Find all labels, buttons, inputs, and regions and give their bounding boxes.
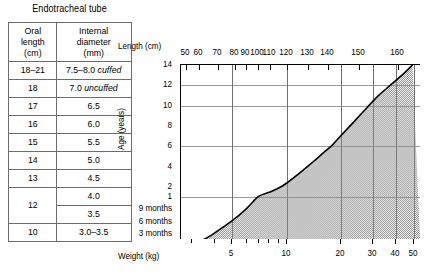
top-axis-tick-label: 100 (250, 47, 264, 57)
y-axis-tick-label: 2 (123, 181, 172, 191)
axis-tick (180, 106, 181, 107)
top-axis-tick-label: 140 (320, 47, 334, 57)
cell-oral-length: 17 (10, 97, 54, 115)
table-row: 134.5 (9, 169, 132, 187)
axis-tick (398, 65, 399, 70)
shaded-region (192, 65, 420, 239)
growth-nomogram: Length (cm) Weight (kg) Age (years) 5060… (118, 0, 424, 274)
axis-tick (287, 65, 288, 70)
table-row: 187.0 uncuffed (9, 79, 132, 97)
y-axis-tick-label: 6 (123, 140, 172, 150)
y-axis-tick-label: 4 (123, 161, 172, 171)
axis-tick-minor (246, 239, 247, 243)
y-axis-tick-label: 3 months (123, 228, 172, 238)
axis-tick (180, 187, 181, 188)
table-row: 176.5 (9, 97, 132, 115)
axis-tick (258, 65, 259, 70)
x-axis-tick-label: 20 (336, 248, 345, 258)
axis-tick (180, 197, 181, 198)
column-header-oral-length: Oral length (cm) (10, 23, 54, 62)
top-axis-tick-label: 50 (181, 47, 190, 57)
axis-tick (270, 65, 271, 70)
cell-oral-length: 12 (10, 187, 54, 223)
y-axis-tick-label: 9 months (123, 203, 172, 213)
axis-tick (340, 239, 341, 244)
diameter-note: uncuffed (84, 82, 118, 93)
axis-tick (180, 126, 181, 127)
x-axis-tick-label: 10 (281, 248, 290, 258)
axis-tick-minor (278, 239, 279, 243)
axis-tick (180, 234, 181, 235)
table-row: 124.0 (9, 187, 132, 205)
top-axis-title: Length (cm) (118, 41, 161, 51)
top-axis-tick-label: 120 (280, 47, 294, 57)
top-axis-tick-label: 130 (300, 47, 314, 57)
cell-oral-length: 10 (10, 223, 54, 241)
y-axis-tick-label: 14 (123, 59, 172, 69)
x-axis-tick-label: 30 (368, 248, 377, 258)
axis-tick (180, 85, 181, 86)
table-row: 103.0–3.5 (9, 223, 132, 241)
cell-oral-length: 18–21 (10, 61, 54, 79)
header-line: Oral (11, 25, 54, 36)
axis-tick (231, 239, 232, 244)
x-axis-tick-label: 40 (390, 248, 399, 258)
axis-tick (235, 65, 236, 70)
cell-oral-length: 18 (10, 79, 54, 97)
top-axis-tick-label: 150 (351, 47, 365, 57)
axis-tick-minor (191, 239, 192, 243)
y-axis-tick-label: 12 (123, 79, 172, 89)
top-axis-tick-label: 90 (241, 47, 250, 57)
axis-tick-minor (258, 239, 259, 243)
endotracheal-tube-table: Oral length (cm) Internal diameter (mm) … (8, 22, 132, 242)
axis-tick (180, 209, 181, 210)
table-title: Endotracheal tube (7, 3, 132, 14)
axis-tick (372, 239, 373, 244)
axis-tick-minor (214, 239, 215, 243)
cell-oral-length: 16 (10, 115, 54, 133)
axis-tick (413, 239, 414, 244)
table-row: 18–217.5–8.0 cuffed (9, 61, 132, 79)
header-line: (cm) (11, 47, 54, 58)
x-axis-title: Weight (kg) (118, 251, 159, 261)
cell-oral-length: 14 (10, 151, 54, 169)
axis-tick (395, 239, 396, 244)
axis-tick (218, 65, 219, 70)
y-axis-tick-label: 6 months (123, 216, 172, 226)
axis-tick (246, 65, 247, 70)
axis-tick (199, 65, 200, 70)
table-header-row: Oral length (cm) Internal diameter (mm) (9, 23, 132, 62)
axis-tick (308, 65, 309, 70)
axis-tick (359, 65, 360, 70)
header-line: length (11, 36, 54, 47)
table-body: 18–217.5–8.0 cuffed187.0 uncuffed176.516… (9, 61, 132, 241)
axis-tick (180, 167, 181, 168)
top-axis-tick-label: 110 (263, 47, 276, 57)
y-axis-tick-label: 1 (123, 191, 172, 201)
y-axis-tick-label: 10 (123, 100, 172, 110)
axis-tick (180, 65, 181, 66)
cell-oral-length: 13 (10, 169, 54, 187)
top-axis-tick-label: 80 (229, 47, 238, 57)
top-axis-tick-label: 60 (193, 47, 202, 57)
axis-tick (286, 239, 287, 244)
cell-oral-length: 15 (10, 133, 54, 151)
plot-area (180, 64, 420, 239)
growth-curve-area (181, 65, 420, 239)
top-axis-tick-label: 160 (390, 47, 404, 57)
table-row: 145.0 (9, 151, 132, 169)
x-axis-tick-label: 50 (408, 248, 417, 258)
table-row: 155.5 (9, 133, 132, 151)
x-axis-tick-label: 5 (229, 248, 234, 258)
axis-tick (186, 65, 187, 70)
axis-tick (180, 222, 181, 223)
table-row: 166.0 (9, 115, 132, 133)
axis-tick (180, 146, 181, 147)
y-axis-tick-label: 8 (123, 120, 172, 130)
axis-tick-minor (268, 239, 269, 243)
axis-tick (328, 65, 329, 70)
top-axis-tick-label: 70 (213, 47, 222, 57)
